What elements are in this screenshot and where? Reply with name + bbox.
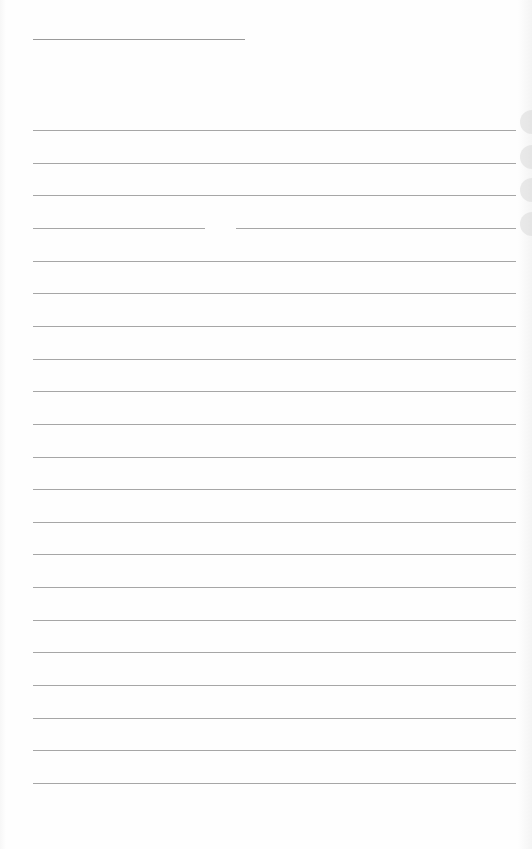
ruled-line (33, 457, 516, 458)
ruled-line (33, 620, 516, 621)
ruled-line (33, 293, 516, 294)
ruled-line (33, 783, 516, 784)
left-edge-shadow (0, 0, 6, 849)
ruled-line (33, 522, 516, 523)
title-line (33, 39, 245, 40)
ruled-line (33, 261, 516, 262)
ruled-line (33, 587, 516, 588)
ruled-line (33, 195, 516, 196)
ruled-line (33, 685, 516, 686)
ruled-line (33, 652, 516, 653)
ruled-line (33, 489, 516, 490)
lined-paper-page (0, 0, 532, 849)
ruled-line (33, 130, 516, 131)
ruled-line (33, 718, 516, 719)
ruled-line (33, 554, 516, 555)
ruled-line (33, 326, 516, 327)
line-gap (205, 227, 236, 230)
ruled-line (33, 391, 516, 392)
ruled-line (33, 163, 516, 164)
ruled-line (33, 424, 516, 425)
ruled-line (33, 228, 516, 229)
ruled-line (33, 359, 516, 360)
ruled-line (33, 750, 516, 751)
